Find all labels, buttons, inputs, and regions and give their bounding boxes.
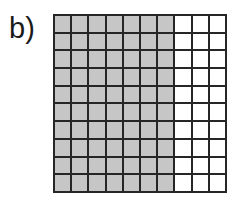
shaded-cell (89, 175, 104, 191)
unshaded-cell (210, 175, 225, 191)
shaded-cell (107, 34, 122, 50)
unshaded-cell (210, 140, 225, 156)
shaded-cell (141, 175, 156, 191)
shaded-cell (107, 140, 122, 156)
shaded-cell (107, 87, 122, 103)
figure-label: b) (9, 12, 35, 44)
shaded-cell (124, 87, 139, 103)
unshaded-cell (193, 175, 208, 191)
shaded-cell (55, 140, 70, 156)
unshaded-cell (193, 87, 208, 103)
unshaded-cell (210, 87, 225, 103)
shaded-cell (141, 122, 156, 138)
shaded-cell (124, 140, 139, 156)
shaded-cell (72, 140, 87, 156)
unshaded-cell (193, 122, 208, 138)
shaded-cell (124, 122, 139, 138)
shaded-cell (107, 175, 122, 191)
shaded-cell (55, 51, 70, 67)
unshaded-cell (210, 34, 225, 50)
unshaded-cell (193, 140, 208, 156)
shaded-cell (55, 122, 70, 138)
shaded-cell (141, 87, 156, 103)
unshaded-cell (210, 122, 225, 138)
shaded-cell (141, 16, 156, 32)
unshaded-cell (210, 51, 225, 67)
shaded-cell (107, 16, 122, 32)
shaded-cell (89, 122, 104, 138)
unshaded-cell (175, 87, 190, 103)
unshaded-cell (175, 175, 190, 191)
shaded-cell (107, 69, 122, 85)
shaded-cell (158, 69, 173, 85)
shaded-cell (124, 16, 139, 32)
shaded-cell (124, 158, 139, 174)
shaded-cell (158, 34, 173, 50)
unshaded-cell (175, 104, 190, 120)
unshaded-cell (193, 51, 208, 67)
shaded-cell (72, 122, 87, 138)
shaded-cell (89, 158, 104, 174)
shaded-cell (158, 158, 173, 174)
unshaded-cell (175, 158, 190, 174)
shaded-cell (55, 175, 70, 191)
shaded-cell (141, 34, 156, 50)
shaded-cell (89, 87, 104, 103)
shaded-cell (72, 16, 87, 32)
shaded-cell (72, 158, 87, 174)
unshaded-cell (210, 16, 225, 32)
shaded-cell (141, 69, 156, 85)
shaded-cell (72, 175, 87, 191)
unshaded-cell (193, 16, 208, 32)
shaded-cell (158, 175, 173, 191)
shaded-cell (124, 34, 139, 50)
shaded-cell (89, 16, 104, 32)
shaded-cell (124, 51, 139, 67)
unshaded-cell (193, 34, 208, 50)
shaded-cell (158, 87, 173, 103)
shaded-cell (158, 104, 173, 120)
unshaded-cell (193, 104, 208, 120)
shaded-cell (89, 34, 104, 50)
shaded-cell (89, 69, 104, 85)
shaded-cell (158, 16, 173, 32)
shaded-cell (55, 16, 70, 32)
shaded-cell (158, 51, 173, 67)
unshaded-cell (175, 16, 190, 32)
unshaded-cell (193, 69, 208, 85)
shaded-cell (89, 140, 104, 156)
unshaded-cell (175, 140, 190, 156)
shaded-cell (72, 104, 87, 120)
shaded-cell (55, 34, 70, 50)
unshaded-cell (193, 158, 208, 174)
shaded-cell (89, 51, 104, 67)
hundred-grid (53, 14, 227, 193)
shaded-cell (72, 87, 87, 103)
shaded-cell (141, 140, 156, 156)
shaded-cell (158, 140, 173, 156)
unshaded-cell (175, 51, 190, 67)
shaded-cell (89, 104, 104, 120)
shaded-cell (124, 104, 139, 120)
unshaded-cell (210, 104, 225, 120)
unshaded-cell (175, 122, 190, 138)
shaded-cell (158, 122, 173, 138)
shaded-cell (55, 104, 70, 120)
shaded-cell (55, 69, 70, 85)
unshaded-cell (210, 69, 225, 85)
shaded-cell (72, 51, 87, 67)
shaded-cell (107, 122, 122, 138)
shaded-cell (141, 158, 156, 174)
shaded-cell (124, 175, 139, 191)
unshaded-cell (175, 69, 190, 85)
unshaded-cell (175, 34, 190, 50)
shaded-cell (141, 51, 156, 67)
shaded-cell (72, 34, 87, 50)
shaded-cell (141, 104, 156, 120)
shaded-cell (55, 87, 70, 103)
shaded-cell (107, 158, 122, 174)
shaded-cell (107, 51, 122, 67)
shaded-cell (55, 158, 70, 174)
shaded-cell (107, 104, 122, 120)
shaded-cell (72, 69, 87, 85)
